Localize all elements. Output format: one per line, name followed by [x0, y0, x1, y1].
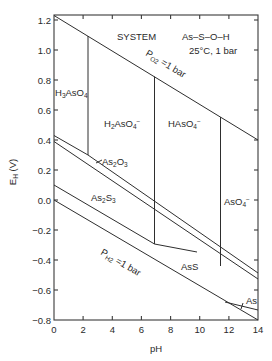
svg-text:−0.8: −0.8 [32, 315, 51, 326]
title-system: SYSTEM [117, 31, 156, 42]
label-h2aso4: H2AsO4− [104, 118, 141, 130]
svg-text:6: 6 [139, 324, 144, 335]
svg-text:2: 2 [80, 324, 85, 335]
svg-text:8: 8 [168, 324, 173, 335]
svg-text:14: 14 [253, 324, 264, 335]
label-haso4: HAsO4− [168, 118, 201, 130]
as2o3-lower-line [54, 142, 258, 280]
ph2-label: PH2 =1 bar [99, 246, 144, 279]
svg-text:PO2 =1 bar: PO2 =1 bar [143, 47, 188, 80]
svg-text:0.0: 0.0 [38, 195, 51, 206]
title-system-name: As–S–O–H [182, 31, 230, 42]
svg-text:0.6: 0.6 [38, 105, 51, 116]
h2-line [54, 200, 258, 320]
label-ass: AsS [181, 261, 198, 272]
svg-text:−0.2: −0.2 [32, 225, 51, 236]
svg-text:1.0: 1.0 [38, 45, 51, 56]
svg-text:EH (V): EH (V) [7, 159, 19, 185]
x-axis-title: pH [150, 343, 162, 354]
pourbaix-diagram: 0 2 4 6 8 10 12 14 1.2 1.0 0.8 0.6 0.4 0… [0, 0, 272, 361]
svg-text:12: 12 [224, 324, 235, 335]
y-tick-labels: 1.2 1.0 0.8 0.6 0.4 0.2 0.0 −0.2 −0.4 −0… [32, 15, 51, 326]
x-tick-labels: 0 2 4 6 8 10 12 14 [51, 324, 263, 335]
svg-text:−0.6: −0.6 [32, 285, 51, 296]
svg-text:0.2: 0.2 [38, 165, 51, 176]
y-axis-title: EH (V) [7, 159, 19, 185]
title-conditions: 25°C, 1 bar [189, 45, 237, 56]
svg-text:0.4: 0.4 [38, 135, 51, 146]
svg-text:0.8: 0.8 [38, 75, 51, 86]
svg-text:−0.4: −0.4 [32, 255, 51, 266]
po2-label: PO2 =1 bar [143, 47, 188, 80]
svg-text:0: 0 [51, 324, 56, 335]
svg-text:1.2: 1.2 [38, 15, 51, 26]
label-as2s3: As2S3 [91, 192, 116, 204]
label-as: As [246, 295, 257, 306]
label-aso4: AsO4− [224, 196, 250, 208]
svg-text:PH2 =1 bar: PH2 =1 bar [99, 246, 144, 279]
region-labels: SYSTEM As–S–O–H 25°C, 1 bar PO2 =1 bar H… [55, 31, 257, 306]
svg-text:4: 4 [110, 324, 115, 335]
svg-text:10: 10 [194, 324, 205, 335]
label-h3aso4: H3AsO4 [55, 87, 88, 99]
label-as2o3: As2O3 [102, 156, 128, 168]
